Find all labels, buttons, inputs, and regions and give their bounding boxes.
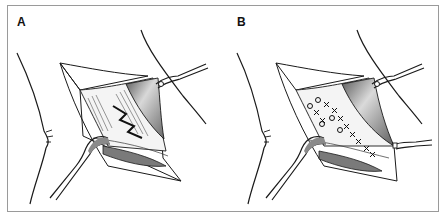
panel-b: B [224, 6, 440, 211]
panel-b-illustration [224, 6, 440, 211]
panel-a: A [8, 6, 224, 211]
figure-frame: A [7, 5, 439, 212]
panel-a-illustration [8, 6, 224, 211]
